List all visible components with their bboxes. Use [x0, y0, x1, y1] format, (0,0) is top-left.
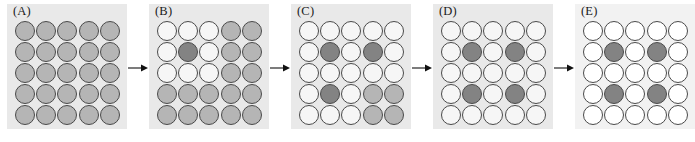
circle-white[interactable] — [483, 105, 503, 125]
grid-cell[interactable] — [242, 42, 263, 63]
circle-white[interactable] — [505, 63, 525, 83]
circle-gray[interactable] — [15, 105, 35, 125]
grid-cell[interactable] — [362, 42, 383, 63]
circle-gray[interactable] — [100, 21, 120, 41]
circle-white[interactable] — [647, 105, 667, 125]
circle-white[interactable] — [199, 63, 219, 83]
circle-white[interactable] — [363, 63, 383, 83]
grid-cell[interactable] — [156, 104, 177, 125]
grid-cell[interactable] — [177, 42, 198, 63]
grid-cell[interactable] — [156, 83, 177, 104]
grid-cell[interactable] — [100, 21, 121, 42]
grid-cell[interactable] — [35, 42, 56, 63]
grid-cell[interactable] — [100, 104, 121, 125]
grid-cell[interactable] — [319, 83, 340, 104]
circle-white[interactable] — [625, 84, 645, 104]
circle-dark[interactable] — [647, 42, 667, 62]
circle-white[interactable] — [483, 84, 503, 104]
grid-cell[interactable] — [362, 21, 383, 42]
circle-gray[interactable] — [242, 105, 262, 125]
circle-white[interactable] — [299, 42, 319, 62]
circle-white[interactable] — [441, 42, 461, 62]
circle-dark[interactable] — [604, 42, 624, 62]
grid-cell[interactable] — [646, 83, 667, 104]
grid-cell[interactable] — [362, 104, 383, 125]
circle-white[interactable] — [625, 42, 645, 62]
circle-gray[interactable] — [57, 84, 77, 104]
grid-cell[interactable] — [504, 63, 525, 84]
circle-white[interactable] — [604, 105, 624, 125]
circle-white[interactable] — [462, 105, 482, 125]
circle-gray[interactable] — [79, 42, 99, 62]
circle-gray[interactable] — [384, 84, 404, 104]
grid-cell[interactable] — [156, 63, 177, 84]
grid-cell[interactable] — [35, 104, 56, 125]
grid-cell[interactable] — [298, 21, 319, 42]
grid-cell[interactable] — [504, 83, 525, 104]
grid-cell[interactable] — [319, 63, 340, 84]
grid-cell[interactable] — [35, 21, 56, 42]
grid-cell[interactable] — [384, 104, 405, 125]
circle-white[interactable] — [384, 63, 404, 83]
circle-white[interactable] — [583, 21, 603, 41]
circle-gray[interactable] — [157, 84, 177, 104]
grid-cell[interactable] — [319, 42, 340, 63]
circle-white[interactable] — [341, 84, 361, 104]
grid-cell[interactable] — [220, 104, 241, 125]
circle-white[interactable] — [483, 21, 503, 41]
grid-cell[interactable] — [582, 63, 603, 84]
grid-cell[interactable] — [199, 83, 220, 104]
grid-cell[interactable] — [526, 21, 547, 42]
grid-cell[interactable] — [78, 21, 99, 42]
circle-gray[interactable] — [221, 84, 241, 104]
grid-cell[interactable] — [603, 21, 624, 42]
grid-cell[interactable] — [440, 42, 461, 63]
grid-cell[interactable] — [220, 42, 241, 63]
circle-white[interactable] — [299, 21, 319, 41]
circle-white[interactable] — [668, 84, 688, 104]
circle-white[interactable] — [441, 105, 461, 125]
grid-cell[interactable] — [362, 83, 383, 104]
circle-gray[interactable] — [79, 63, 99, 83]
grid-cell[interactable] — [603, 63, 624, 84]
grid-cell[interactable] — [100, 63, 121, 84]
circle-gray[interactable] — [221, 42, 241, 62]
grid-cell[interactable] — [298, 104, 319, 125]
grid-cell[interactable] — [483, 21, 504, 42]
circle-gray[interactable] — [36, 63, 56, 83]
grid-cell[interactable] — [14, 83, 35, 104]
circle-white[interactable] — [526, 84, 546, 104]
circle-dark[interactable] — [505, 84, 525, 104]
circle-gray[interactable] — [36, 42, 56, 62]
circle-white[interactable] — [526, 42, 546, 62]
grid-cell[interactable] — [440, 83, 461, 104]
grid-cell[interactable] — [483, 63, 504, 84]
circle-white[interactable] — [625, 21, 645, 41]
circle-white[interactable] — [157, 21, 177, 41]
circle-gray[interactable] — [79, 105, 99, 125]
grid-cell[interactable] — [646, 21, 667, 42]
grid-cell[interactable] — [384, 42, 405, 63]
grid-cell[interactable] — [298, 63, 319, 84]
grid-cell[interactable] — [220, 21, 241, 42]
grid-cell[interactable] — [298, 83, 319, 104]
grid-cell[interactable] — [341, 63, 362, 84]
circle-dark[interactable] — [320, 42, 340, 62]
grid-cell[interactable] — [100, 42, 121, 63]
circle-gray[interactable] — [221, 105, 241, 125]
grid-cell[interactable] — [156, 42, 177, 63]
grid-cell[interactable] — [14, 21, 35, 42]
circle-gray[interactable] — [15, 63, 35, 83]
circle-gray[interactable] — [242, 84, 262, 104]
circle-white[interactable] — [604, 21, 624, 41]
grid-cell[interactable] — [646, 42, 667, 63]
grid-cell[interactable] — [14, 42, 35, 63]
grid-cell[interactable] — [199, 21, 220, 42]
grid-cell[interactable] — [504, 104, 525, 125]
circle-white[interactable] — [157, 42, 177, 62]
grid-cell[interactable] — [603, 42, 624, 63]
circle-white[interactable] — [157, 63, 177, 83]
grid-cell[interactable] — [526, 63, 547, 84]
circle-gray[interactable] — [221, 63, 241, 83]
grid-cell[interactable] — [35, 63, 56, 84]
